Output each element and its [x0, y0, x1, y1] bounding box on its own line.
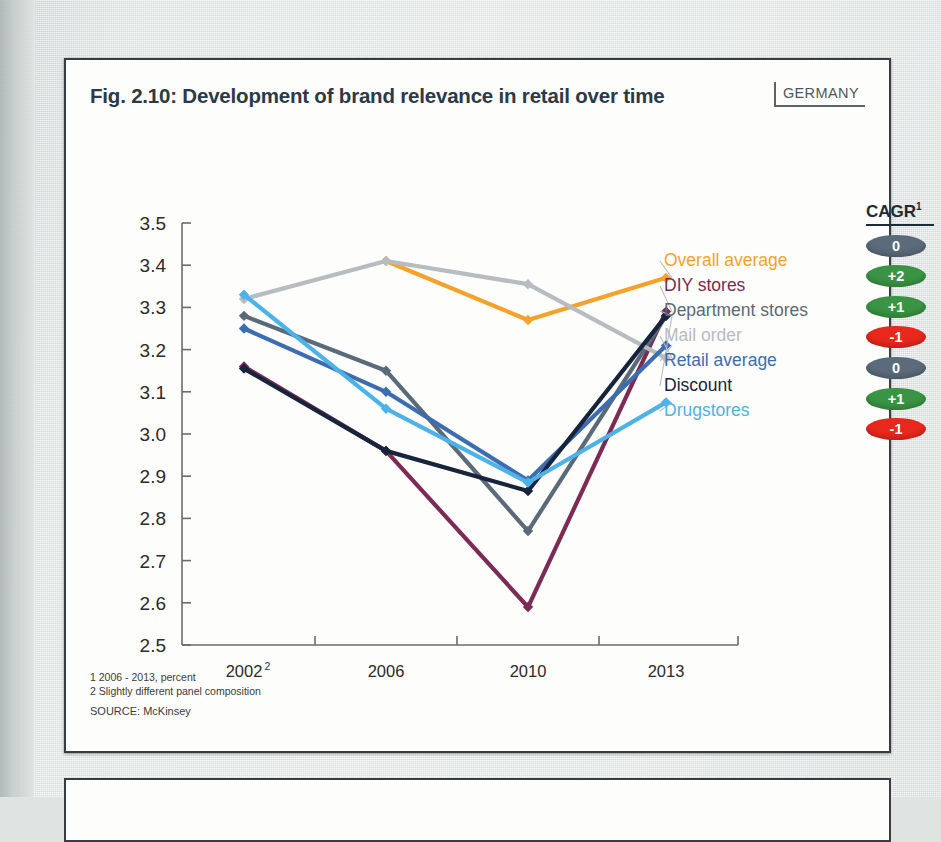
- cagr-pill-list: 0+2+1-10+1-1: [866, 235, 941, 441]
- legend-item-drugstores: Drugstores: [664, 398, 808, 423]
- svg-text:3.1: 3.1: [140, 382, 166, 403]
- legend-label: Overall average: [664, 250, 788, 270]
- next-figure-panel: [64, 778, 891, 842]
- legend-item-department-stores: Department stores: [664, 298, 808, 323]
- legend-label: Retail average: [664, 350, 777, 370]
- legend-label: DIY stores: [664, 275, 745, 295]
- footnote-2: 2 Slightly different panel composition: [90, 684, 261, 698]
- page-spine-shadow: [0, 0, 34, 797]
- source-note: SOURCE: McKinsey: [90, 705, 261, 717]
- legend-item-discount: Discount: [664, 373, 808, 398]
- svg-text:2: 2: [264, 660, 270, 672]
- cagr-pill-department-stores: +1: [866, 296, 926, 318]
- cagr-pill-discount: +1: [866, 388, 926, 410]
- svg-text:2013: 2013: [648, 662, 685, 680]
- cagr-pill-diy-stores: +2: [866, 265, 926, 287]
- legend-item-overall-average: Overall average: [664, 248, 808, 273]
- svg-text:3.3: 3.3: [140, 297, 166, 318]
- svg-text:2.8: 2.8: [140, 508, 166, 529]
- legend-label: Drugstores: [664, 400, 750, 420]
- cagr-pill-overall-average: 0: [866, 235, 926, 257]
- svg-text:3.0: 3.0: [140, 424, 166, 445]
- svg-text:3.4: 3.4: [140, 255, 167, 276]
- legend-item-diy-stores: DIY stores: [664, 273, 808, 298]
- figure-panel: Fig. 2.10: Development of brand relevanc…: [64, 58, 891, 753]
- cagr-pill-retail-average: 0: [866, 357, 926, 379]
- cagr-pill-drugstores: -1: [866, 418, 926, 440]
- svg-text:3.2: 3.2: [140, 340, 166, 361]
- footnote-1: 1 2006 - 2013, percent: [90, 670, 261, 684]
- legend-item-mail-order: Mail order: [664, 323, 808, 348]
- svg-text:2.5: 2.5: [140, 635, 166, 656]
- legend-label: Mail order: [664, 325, 742, 345]
- cagr-header: CAGR1: [866, 201, 934, 226]
- legend-label: Discount: [664, 375, 732, 395]
- svg-text:2.7: 2.7: [140, 551, 166, 572]
- cagr-pill-mail-order: -1: [866, 326, 926, 348]
- svg-text:2010: 2010: [510, 662, 547, 680]
- chart-legend: Overall averageDIY storesDepartment stor…: [664, 248, 808, 423]
- cagr-column: CAGR1 0+2+1-10+1-1: [866, 201, 941, 440]
- svg-text:3.5: 3.5: [140, 213, 166, 234]
- legend-item-retail-average: Retail average: [664, 348, 808, 373]
- legend-label: Department stores: [664, 300, 808, 320]
- footnotes: 1 2006 - 2013, percent 2 Slightly differ…: [90, 670, 261, 717]
- svg-text:2.9: 2.9: [140, 466, 166, 487]
- svg-text:2006: 2006: [368, 662, 405, 680]
- svg-text:2.6: 2.6: [140, 593, 166, 614]
